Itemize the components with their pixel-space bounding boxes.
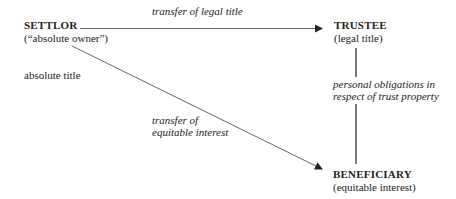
beneficiary-title: BENEFICIARY [333,168,412,180]
edge-settlor-beneficiary-arrow [72,46,322,169]
edge-label-obligations-line2: respect of trust property [333,90,439,102]
edge-label-equitable-line2: equitable interest [152,126,228,138]
edge-label-equitable-line1: transfer of [152,114,198,126]
settlor-title: SETTLOR [24,19,77,31]
edge-label-legal-title: transfer of legal title [152,5,243,17]
settlor-subtitle: (“absolute owner”) [24,32,108,44]
edge-label-obligations-line1: personal obligations in [333,78,435,90]
trustee-subtitle: (legal title) [334,32,383,44]
settlor-note: absolute title [24,69,81,81]
beneficiary-subtitle: (equitable interest) [333,181,416,193]
trustee-title: TRUSTEE [334,19,387,31]
